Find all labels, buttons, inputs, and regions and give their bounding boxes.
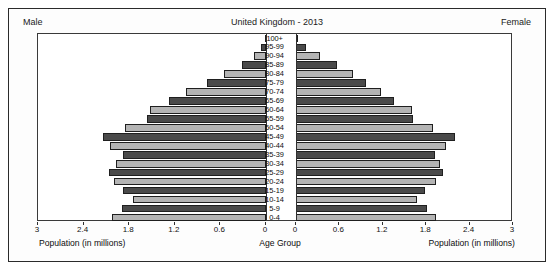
population-pyramid-plot: 100+95-9990-9485-8980-8475-7970-7465-696… [37, 33, 512, 221]
center-axis-label: Age Group [259, 238, 301, 248]
right-axis-tick-label: 3 [510, 225, 514, 234]
age-group-label: 10-14 [38, 195, 511, 204]
pyramid-row: 0-4 [38, 213, 511, 222]
right-axis-tick-label: 0.6 [333, 225, 344, 234]
right-axis-tick-label: 1.2 [376, 225, 387, 234]
age-group-label: 70-74 [38, 87, 511, 96]
age-group-label: 25-29 [38, 168, 511, 177]
age-group-label: 50-54 [38, 123, 511, 132]
female-side-label: Female [501, 17, 531, 27]
age-group-label: 20-24 [38, 177, 511, 186]
age-group-label: 90-94 [38, 51, 511, 60]
right-axis-label: Population (in millions) [429, 238, 515, 248]
age-group-label: 0-4 [38, 213, 511, 222]
chart-title: United Kingdom - 2013 [9, 17, 545, 27]
age-group-label: 30-34 [38, 159, 511, 168]
right-axis-ticks: 00.61.21.82.43 [37, 222, 512, 233]
right-axis-tick-label: 1.8 [420, 225, 431, 234]
age-group-label: 60-64 [38, 105, 511, 114]
age-group-label: 85-89 [38, 60, 511, 69]
age-group-label: 35-39 [38, 150, 511, 159]
age-group-label: 40-44 [38, 141, 511, 150]
age-group-label: 100+ [38, 34, 511, 43]
age-group-label: 95-99 [38, 42, 511, 51]
age-group-label: 80-84 [38, 69, 511, 78]
age-group-label: 65-69 [38, 96, 511, 105]
left-axis-label: Population (in millions) [39, 238, 125, 248]
age-group-label: 15-19 [38, 186, 511, 195]
chart-frame: Male United Kingdom - 2013 Female 100+95… [8, 8, 546, 262]
age-group-label: 45-49 [38, 132, 511, 141]
age-group-label: 55-59 [38, 114, 511, 123]
age-group-label: 5-9 [38, 204, 511, 213]
right-axis-tick-label: 2.4 [463, 225, 474, 234]
age-group-label: 75-79 [38, 78, 511, 87]
right-axis-tick-label: 0 [293, 225, 297, 234]
